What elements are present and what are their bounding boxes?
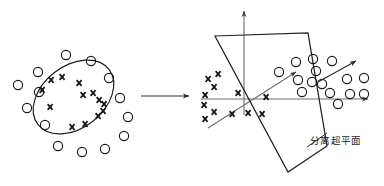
negative-class-circle bbox=[77, 147, 86, 156]
positive-class-cross bbox=[77, 80, 82, 86]
feature-space-circle bbox=[342, 74, 351, 83]
negative-class-circle bbox=[61, 50, 70, 59]
feature-space-circle bbox=[333, 99, 342, 108]
feature-space-circle-group bbox=[274, 54, 368, 108]
negative-class-circle bbox=[104, 73, 113, 82]
feature-space-cross bbox=[236, 90, 241, 96]
feature-space-circle bbox=[311, 66, 320, 75]
negative-class-circle bbox=[53, 141, 62, 150]
positive-class-cross bbox=[48, 104, 53, 110]
negative-class-circle bbox=[123, 112, 132, 121]
feature-space-circle bbox=[307, 77, 316, 86]
positive-class-cross-group bbox=[40, 74, 107, 130]
positive-class-cross bbox=[91, 90, 96, 96]
feature-space-circle bbox=[325, 88, 334, 97]
positive-class-cross bbox=[102, 101, 107, 107]
negative-class-circle bbox=[119, 131, 128, 140]
positive-class-cross bbox=[101, 108, 106, 114]
svm-kernel-diagram: 分离超平面 bbox=[0, 0, 384, 186]
feature-space-cross bbox=[202, 102, 207, 108]
feature-space-cross bbox=[206, 76, 211, 82]
feature-space-cross bbox=[203, 116, 208, 122]
negative-class-circle bbox=[115, 93, 124, 102]
feature-space-panel: 分离超平面 bbox=[201, 11, 369, 172]
positive-class-cross bbox=[60, 74, 65, 80]
feature-space-cross-group bbox=[202, 71, 269, 122]
feature-space-cross bbox=[212, 109, 217, 115]
input-space-panel bbox=[13, 45, 132, 157]
negative-class-circle bbox=[13, 80, 22, 89]
feature-space-circle bbox=[345, 89, 354, 98]
depth-axis bbox=[208, 72, 296, 128]
feature-space-circle bbox=[293, 75, 302, 84]
negative-class-circle-group bbox=[13, 50, 132, 156]
feature-space-cross bbox=[216, 71, 221, 77]
feature-space-cross bbox=[203, 92, 208, 98]
feature-space-circle bbox=[317, 79, 326, 88]
normal-direction-arrow bbox=[318, 61, 356, 82]
positive-class-cross bbox=[97, 97, 102, 103]
negative-class-circle bbox=[40, 120, 49, 129]
negative-class-circle bbox=[22, 103, 31, 112]
feature-space-cross bbox=[246, 110, 251, 116]
hyperplane-label: 分离超平面 bbox=[310, 135, 362, 146]
positive-class-cross bbox=[96, 113, 101, 119]
feature-space-circle bbox=[291, 57, 300, 66]
positive-class-cross bbox=[49, 77, 54, 83]
negative-class-circle bbox=[33, 67, 42, 76]
feature-space-circle bbox=[274, 67, 283, 76]
feature-space-circle bbox=[297, 87, 306, 96]
diagram-canvas: 分离超平面 bbox=[0, 0, 384, 186]
feature-space-cross bbox=[260, 111, 265, 117]
feature-space-circle bbox=[359, 73, 368, 82]
positive-class-cross bbox=[70, 124, 75, 130]
negative-class-circle bbox=[100, 144, 109, 153]
feature-space-cross bbox=[212, 84, 217, 90]
decision-boundary-ellipse bbox=[19, 45, 128, 149]
feature-space-circle bbox=[327, 56, 336, 65]
separating-hyperplane-plane bbox=[215, 33, 327, 172]
positive-class-cross bbox=[81, 92, 86, 98]
feature-space-circle bbox=[359, 89, 368, 98]
